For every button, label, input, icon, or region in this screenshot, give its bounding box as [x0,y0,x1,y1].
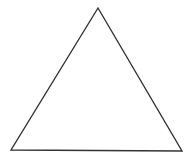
triangle-diagram [0,0,193,158]
equilateral-triangle [11,8,182,151]
